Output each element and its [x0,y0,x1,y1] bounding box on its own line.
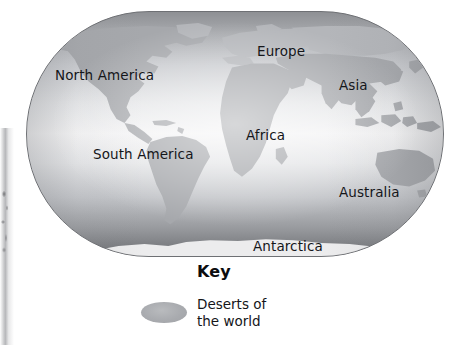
map-plate: North America Europe Asia Africa South A… [26,11,444,257]
landmass-sulawesi [402,116,417,127]
landmass-caribbean [152,120,176,126]
label-australia: Australia [339,186,400,200]
landmass-philippines [393,101,403,111]
world-map: North America Europe Asia Africa South A… [26,11,444,257]
key-label-deserts: Deserts of the world [197,296,266,330]
landmass-antarctica [83,239,421,256]
scan-speck-artifact [1,188,10,258]
label-south-america: South America [93,148,194,162]
landmass-north-asia [292,26,411,56]
landmass-iberia-italy [222,56,254,66]
landmass-madagascar [276,147,288,165]
landmass-tasmania [417,190,427,198]
landmass-lesser-antilles [177,127,184,134]
landmass-borneo [381,114,401,127]
key-title: Key [197,264,231,280]
label-asia: Asia [339,79,368,93]
label-europe: Europe [257,45,305,59]
figure-page: North America Europe Asia Africa South A… [0,0,462,345]
landmass-australia [375,149,435,187]
landmass-kamchatka [407,34,423,48]
landmass-central-america [125,123,153,144]
key-swatch-deserts [141,302,187,323]
label-africa: Africa [246,129,285,143]
landmass-new-guinea [417,121,441,132]
landmass-new-zealand [437,181,443,193]
scan-gutter-artifact [0,128,14,345]
landmass-japan [409,60,423,74]
landmass-sumatra [355,117,379,127]
label-antarctica: Antarctica [253,240,323,254]
map-key: Key Deserts of the world [141,264,391,342]
landmasses [27,12,443,256]
label-north-america: North America [55,69,154,83]
